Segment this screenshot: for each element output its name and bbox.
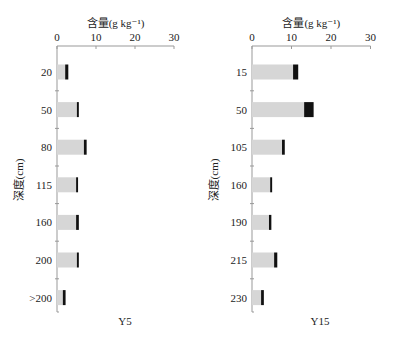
y-tick-label: 230 (231, 292, 248, 304)
x-tick-label: 20 (326, 31, 338, 43)
bar-segment-dark (304, 102, 313, 117)
y-tick-label: 50 (236, 104, 248, 116)
chart-panel-y15: 含量(g kg⁻¹)0102030深度(cm)15501051601902152… (196, 0, 394, 341)
y-tick-label: 115 (36, 179, 53, 191)
bar-segment-dark (77, 102, 79, 117)
bar-segment-light (252, 140, 282, 155)
bar-segment-light (252, 65, 293, 80)
panel-title: Y15 (311, 315, 330, 327)
bar-segment-dark (77, 253, 79, 268)
y-tick-label: 20 (41, 66, 53, 78)
chart-svg-y15: 含量(g kg⁻¹)0102030深度(cm)15501051601902152… (196, 0, 394, 341)
bar-segment-light (252, 290, 261, 305)
bar-segment-dark (76, 215, 79, 230)
bar-segment-light (57, 140, 84, 155)
bar-segment-dark (63, 290, 66, 305)
bar-segment-dark (261, 290, 264, 305)
x-tick-label: 30 (365, 31, 377, 43)
y-tick-label: 160 (231, 179, 248, 191)
x-tick-label: 0 (54, 31, 60, 43)
x-tick-label: 10 (286, 31, 298, 43)
y-tick-label: 15 (236, 66, 248, 78)
y-tick-label: 190 (231, 216, 248, 228)
bar-segment-light (57, 65, 65, 80)
bar-segment-light (57, 253, 77, 268)
bar-segment-dark (282, 140, 285, 155)
bar-segment-dark (76, 177, 78, 192)
y-tick-label: 200 (36, 254, 53, 266)
bar-segment-light (252, 177, 270, 192)
chart-svg-y5: 含量(g kg⁻¹)0102030深度(cm)205080115160200>2… (0, 0, 198, 341)
bar-segment-light (57, 290, 63, 305)
bar-segment-light (57, 102, 77, 117)
x-tick-label: 0 (249, 31, 255, 43)
bar-segment-dark (274, 253, 277, 268)
bar-segment-dark (293, 65, 298, 80)
chart-panel-y5: 含量(g kg⁻¹)0102030深度(cm)205080115160200>2… (0, 0, 198, 341)
x-tick-label: 30 (169, 31, 181, 43)
x-tick-label: 10 (91, 31, 103, 43)
panel-title: Y5 (118, 315, 132, 327)
x-axis-label: 含量(g kg⁻¹) (282, 16, 340, 30)
y-tick-label: 105 (231, 141, 248, 153)
y-tick-label: 80 (41, 141, 53, 153)
bar-segment-light (57, 215, 76, 230)
bar-segment-dark (65, 65, 68, 80)
bar-segment-dark (84, 140, 87, 155)
y-tick-label: 50 (41, 104, 53, 116)
bar-segment-light (57, 177, 76, 192)
bar-segment-light (252, 215, 269, 230)
x-tick-label: 20 (130, 31, 142, 43)
bar-segment-light (252, 253, 274, 268)
bar-segment-dark (270, 177, 272, 192)
y-tick-label: 160 (36, 216, 53, 228)
y-tick-label: >200 (29, 292, 52, 304)
bar-segment-dark (269, 215, 271, 230)
y-axis-label: 深度(cm) (12, 158, 26, 201)
y-axis-label: 深度(cm) (207, 158, 221, 201)
x-axis-label: 含量(g kg⁻¹) (87, 16, 145, 30)
bar-segment-light (252, 102, 304, 117)
y-tick-label: 215 (231, 254, 248, 266)
